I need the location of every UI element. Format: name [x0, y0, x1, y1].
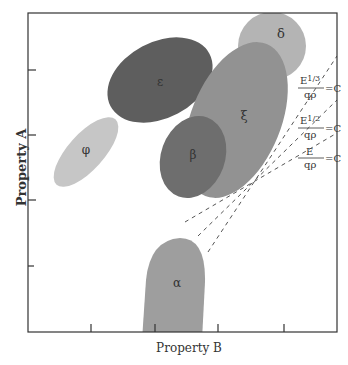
- svg-text:E1/3: E1/3: [300, 74, 320, 86]
- guide-label-1: E1/3 qρ =C: [298, 74, 341, 100]
- svg-text:E1/2: E1/2: [300, 114, 320, 126]
- label-beta: β: [190, 148, 197, 162]
- guide-label-3: E qρ =C: [298, 146, 341, 170]
- svg-text:=C: =C: [325, 153, 341, 164]
- svg-text:qρ: qρ: [304, 89, 316, 100]
- y-axis-label: Property A: [14, 113, 29, 223]
- svg-text:=C: =C: [325, 123, 341, 134]
- svg-text:qρ: qρ: [304, 159, 316, 170]
- label-alpha: α: [173, 276, 181, 290]
- label-epsilon: ε: [157, 75, 163, 89]
- svg-text:qρ: qρ: [304, 129, 316, 140]
- svg-text:=C: =C: [325, 83, 341, 94]
- label-phi: φ: [82, 143, 90, 157]
- label-xi: ξ: [240, 108, 247, 123]
- x-axis-label: Property B: [0, 341, 348, 355]
- y-axis-ticks: [28, 70, 36, 266]
- svg-text:E: E: [306, 146, 313, 157]
- label-delta: δ: [277, 26, 285, 41]
- selection-chart: ε φ δ ξ β α E1/3 qρ =C E1/2 qρ =C E qρ =…: [0, 0, 348, 365]
- guide-label-2: E1/2 qρ =C: [298, 114, 341, 140]
